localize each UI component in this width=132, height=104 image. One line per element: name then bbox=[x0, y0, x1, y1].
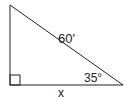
right-angle-marker bbox=[10, 75, 20, 85]
triangle-diagram: 60' 35° x bbox=[0, 0, 132, 104]
hypotenuse-label: 60' bbox=[58, 31, 75, 46]
angle-label: 35° bbox=[84, 71, 102, 85]
base-label: x bbox=[58, 86, 64, 100]
